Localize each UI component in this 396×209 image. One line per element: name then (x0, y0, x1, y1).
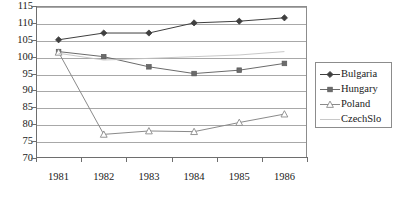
data-point-filled-diamond (146, 30, 152, 36)
legend-item-poland[interactable]: Poland (316, 97, 391, 112)
legend-item-hungary[interactable]: Hungary (316, 82, 391, 97)
legend-item-bulgaria[interactable]: Bulgaria (316, 67, 391, 82)
legend-label-poland: Poland (341, 99, 370, 110)
line-chart: 707580859095100105110115 198119821983198… (0, 0, 396, 209)
series-line (59, 52, 285, 134)
data-point-filled-diamond (236, 18, 242, 24)
data-point-filled-diamond (191, 20, 197, 26)
legend-key-hungary (319, 82, 341, 97)
legend-item-czechslo[interactable]: CzechSlo (316, 112, 391, 127)
data-point-filled-square (237, 68, 242, 73)
data-point-filled-square (328, 87, 333, 92)
data-point-open-triangle (281, 111, 288, 117)
data-point-filled-square (282, 61, 287, 66)
legend-key-poland (319, 97, 341, 112)
legend-key-bulgaria (319, 67, 341, 82)
legend-label-bulgaria: Bulgaria (341, 69, 377, 80)
data-point-filled-square (101, 54, 106, 59)
chart-legend: Bulgaria Hungary Poland CzechSlo (315, 62, 392, 128)
series-line (59, 18, 285, 40)
data-point-filled-diamond (55, 37, 61, 43)
data-point-filled-diamond (327, 71, 333, 77)
series-bulgaria (55, 15, 287, 43)
series-hungary (56, 49, 286, 76)
data-point-filled-square (192, 71, 197, 76)
series-poland (55, 49, 288, 137)
legend-label-hungary: Hungary (341, 84, 378, 95)
data-point-filled-square (147, 65, 152, 70)
data-point-filled-diamond (101, 30, 107, 36)
legend-label-czechslo: CzechSlo (341, 114, 381, 125)
legend-key-czechslo (319, 112, 341, 127)
data-point-filled-diamond (281, 15, 287, 21)
series-line (59, 52, 285, 74)
